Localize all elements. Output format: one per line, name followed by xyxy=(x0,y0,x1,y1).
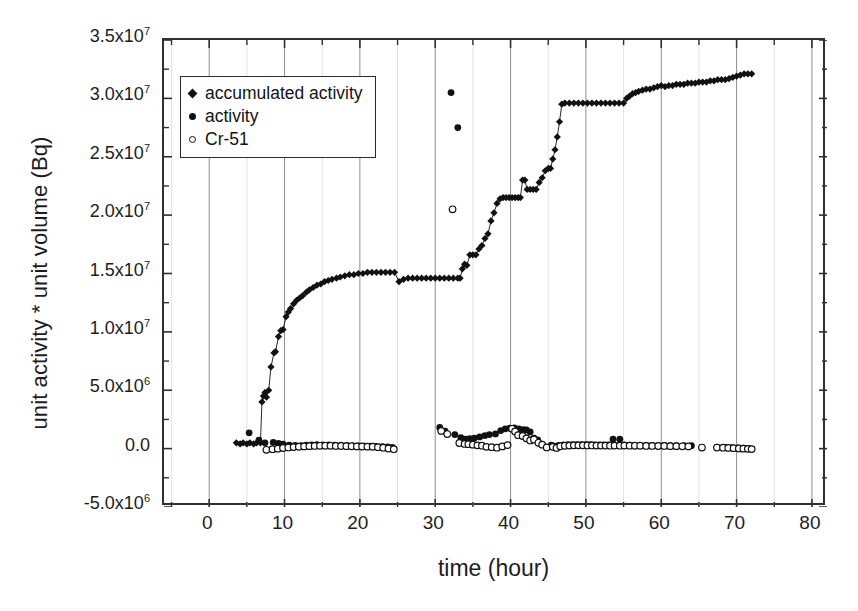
data-point-open-circle xyxy=(444,431,451,438)
data-point-diamond xyxy=(490,209,497,216)
data-point-open-circle xyxy=(390,446,397,453)
y-axis-tick-labels: -5.0x1060.05.0x1061.0x1071.5x1072.0x1072… xyxy=(40,0,150,611)
x-tick-label: 10 xyxy=(272,512,293,534)
x-tick-label: 50 xyxy=(573,512,594,534)
y-tick-label: 3.0x107 xyxy=(90,85,150,103)
y-tick-label: 5.0x106 xyxy=(90,377,150,395)
y-tick-label: -5.0x106 xyxy=(84,494,150,512)
data-point-diamond xyxy=(487,217,494,224)
data-point-circle xyxy=(454,124,461,131)
data-point-circle xyxy=(527,429,534,436)
legend-item-cr-51: Cr-51 xyxy=(189,128,363,151)
x-tick-label: 70 xyxy=(724,512,745,534)
data-point-open-circle xyxy=(699,444,706,451)
data-point-circle xyxy=(246,429,253,436)
plot-area: accumulated activity activity Cr-51 xyxy=(162,38,825,505)
data-point-circle xyxy=(610,436,617,443)
data-point-diamond xyxy=(551,146,558,153)
filled-diamond-icon xyxy=(189,90,205,97)
data-point-open-circle xyxy=(748,446,755,453)
data-point-open-circle xyxy=(685,443,692,450)
data-point-open-circle xyxy=(504,442,511,449)
data-point-diamond xyxy=(554,133,561,140)
data-point-circle xyxy=(262,439,269,446)
y-tick-label: 1.5x107 xyxy=(90,261,150,279)
data-point-diamond xyxy=(267,363,274,370)
open-circle-icon xyxy=(189,136,205,143)
data-point-open-circle xyxy=(449,206,456,213)
data-point-circle xyxy=(486,431,493,438)
legend-label: Cr-51 xyxy=(205,129,249,150)
x-tick-label: 40 xyxy=(498,512,519,534)
y-tick-label: 0.0 xyxy=(125,436,150,454)
legend-label: accumulated activity xyxy=(205,83,363,104)
legend-label: activity xyxy=(205,106,258,127)
data-point-circle xyxy=(256,437,263,444)
x-tick-label: 30 xyxy=(423,512,444,534)
x-tick-label: 80 xyxy=(799,512,820,534)
data-point-circle xyxy=(451,431,458,438)
y-tick-label: 1.0x107 xyxy=(90,319,150,337)
y-tick-label: 2.5x107 xyxy=(90,144,150,162)
x-tick-label: 20 xyxy=(347,512,368,534)
data-point-diamond xyxy=(748,70,755,77)
filled-circle-icon xyxy=(189,113,205,120)
data-point-circle xyxy=(616,436,623,443)
x-axis-title: time (hour) xyxy=(162,555,825,582)
series-Cr-51 xyxy=(263,206,755,453)
data-point-circle xyxy=(448,89,455,96)
data-point-diamond xyxy=(258,398,265,405)
x-tick-label: 60 xyxy=(649,512,670,534)
legend-item-activity: activity xyxy=(189,105,363,128)
figure: unit activity * unit volume (Bq) -5.0x10… xyxy=(0,0,858,611)
legend-item-accumulated-activity: accumulated activity xyxy=(189,82,363,105)
data-point-diamond xyxy=(556,118,563,125)
x-tick-label: 0 xyxy=(202,512,213,534)
data-point-diamond xyxy=(549,155,556,162)
legend: accumulated activity activity Cr-51 xyxy=(180,76,376,158)
y-tick-label: 3.5x107 xyxy=(90,27,150,45)
y-tick-label: 2.0x107 xyxy=(90,202,150,220)
